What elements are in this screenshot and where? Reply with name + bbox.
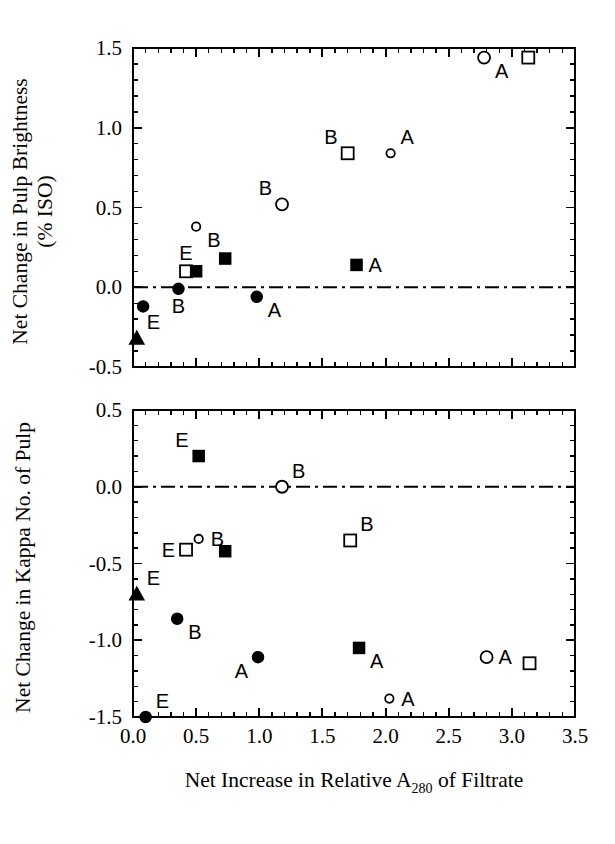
marker-filled-square (220, 546, 231, 557)
data-point-label: E (179, 242, 192, 264)
data-point-label: B (172, 295, 185, 317)
data-point (138, 301, 149, 312)
data-point: B (344, 513, 373, 546)
y-ticklabel: 1.0 (96, 116, 122, 140)
data-point-label: E (175, 429, 188, 451)
tick-group (133, 48, 575, 367)
data-point-label: B (259, 177, 272, 199)
data-point: B (172, 283, 185, 317)
data-point: E (162, 539, 192, 561)
bottom-ylabel: Net Change in Kappa No. of Pulp (11, 422, 35, 713)
marker-open-circle (276, 198, 288, 210)
y-ticklabel: -0.5 (89, 552, 122, 576)
plot-frame (133, 48, 575, 367)
data-point (191, 266, 202, 277)
y-ticklabel: -1.5 (89, 705, 122, 729)
data-point (220, 546, 231, 557)
panel-top-panel: -0.50.00.51.01.5EEBBABBAAA (89, 36, 575, 379)
x-ticklabel: 1.0 (246, 724, 272, 748)
data-point: E (175, 429, 204, 462)
x-ticklabel: 2.0 (372, 724, 398, 748)
data-point: B (192, 222, 221, 250)
data-point: A (385, 688, 415, 710)
x-ticklabel: 2.5 (436, 724, 462, 748)
data-point-label: B (292, 460, 305, 482)
data-point: A (251, 291, 282, 321)
marker-open-circle-small (194, 535, 202, 543)
data-point: E (130, 567, 161, 600)
x-ticklabel: 1.5 (309, 724, 335, 748)
data-point-label: A (401, 126, 415, 148)
data-point (522, 52, 534, 64)
marker-filled-triangle (130, 587, 144, 600)
y-ticklabel: -0.5 (89, 355, 122, 379)
y-ticklabels: -1.5-1.0-0.50.00.5 (89, 398, 122, 729)
y-ticklabel: 0.5 (96, 398, 122, 422)
marker-filled-circle (252, 652, 263, 663)
marker-filled-circle (172, 613, 183, 624)
top-ylabel-line2: (% ISO) (33, 175, 57, 247)
marker-filled-circle (173, 283, 184, 294)
data-point-label: A (268, 299, 282, 321)
marker-filled-square (353, 642, 364, 653)
data-point (220, 253, 231, 264)
data-point-label: B (207, 229, 220, 251)
data-point-label: B (360, 513, 373, 535)
data-point: B (259, 177, 288, 210)
marker-open-circle (276, 481, 288, 493)
marker-open-circle-small (386, 149, 394, 157)
marker-filled-circle (251, 291, 262, 302)
data-point-label: B (188, 621, 201, 643)
data-point: E (130, 311, 161, 344)
x-ticklabel: 0.0 (120, 724, 146, 748)
y-ticklabel: -1.0 (89, 628, 122, 652)
data-point-label: A (401, 688, 415, 710)
data-point-label: A (369, 254, 383, 276)
marker-filled-circle (138, 301, 149, 312)
marker-open-square (522, 52, 534, 64)
data-point-label: A (370, 650, 384, 672)
data-point: B (324, 126, 353, 159)
marker-open-circle-small (385, 694, 393, 702)
data-point-label: B (324, 126, 337, 148)
marker-open-square (342, 147, 354, 159)
x-axis-title-post: of Filtrate (433, 768, 524, 792)
marker-open-circle (481, 651, 493, 663)
marker-open-square (344, 534, 356, 546)
marker-filled-circle (140, 711, 151, 722)
data-points: EEBBABBAAA (130, 52, 535, 344)
data-point: A (478, 52, 509, 82)
y-ticklabels: -0.50.00.51.01.5 (89, 36, 122, 379)
marker-open-circle-small (192, 222, 200, 230)
data-point (524, 657, 536, 669)
y-ticklabel: 0.5 (96, 196, 122, 220)
data-point-label: A (499, 646, 513, 668)
marker-filled-square (220, 253, 231, 264)
marker-filled-square (193, 450, 204, 461)
x-ticklabel: 3.5 (562, 724, 588, 748)
marker-filled-triangle (130, 331, 144, 344)
panel-bottom-panel: -1.5-1.0-0.50.00.50.00.51.01.52.02.53.03… (89, 398, 588, 748)
data-point: A (353, 642, 384, 672)
marker-open-circle (478, 52, 490, 64)
x-axis-title-subscript: 280 (412, 781, 433, 796)
x-axis-title: Net Increase in Relative A280 of Filtrat… (185, 768, 524, 796)
data-point: A (481, 646, 513, 668)
data-point-label: A (495, 60, 509, 82)
data-point-label: E (162, 539, 175, 561)
y-ticklabel: 1.5 (96, 36, 122, 60)
data-point: A (351, 254, 383, 276)
x-ticklabel: 3.0 (499, 724, 525, 748)
x-ticklabels: 0.00.51.01.52.02.53.03.5 (120, 724, 588, 748)
data-point: A (386, 126, 414, 157)
data-point-label: E (156, 690, 169, 712)
x-axis-title-pre: Net Increase in Relative A (185, 768, 412, 792)
y-ticklabel: 0.0 (96, 275, 122, 299)
marker-open-square (180, 544, 192, 556)
data-points: EEBEBEABBAAA (130, 429, 536, 723)
data-point: B (172, 613, 202, 643)
scatter-figure: -0.50.00.51.01.5EEBBABBAAA-1.5-1.0-0.50.… (0, 0, 615, 844)
marker-open-square (524, 657, 536, 669)
data-point: A (235, 652, 264, 683)
figure-canvas: -0.50.00.51.01.5EEBBABBAAA-1.5-1.0-0.50.… (0, 0, 615, 844)
